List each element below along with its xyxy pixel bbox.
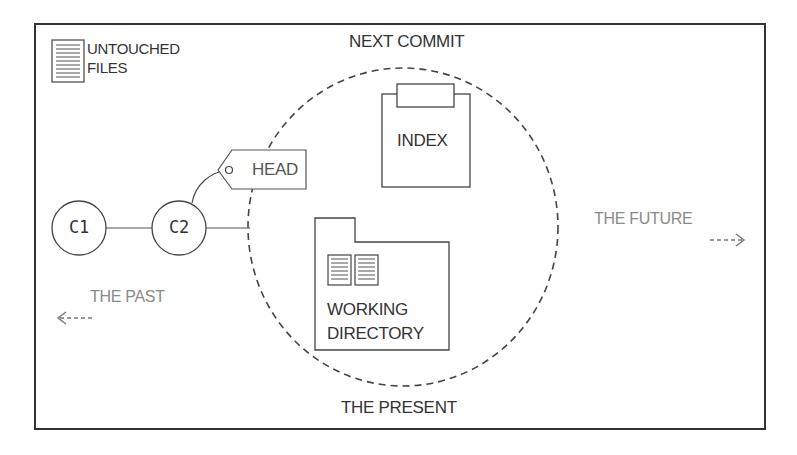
working-directory-line-1: WORKING [327, 298, 424, 322]
document-icon [52, 40, 84, 82]
future-arrow-icon [710, 234, 744, 246]
the-past-label: THE PAST [90, 288, 165, 306]
past-arrow-icon [58, 312, 92, 324]
working-directory-line-2: DIRECTORY [327, 322, 424, 346]
legend-line-2: FILES [87, 58, 180, 77]
next-commit-label: NEXT COMMIT [349, 32, 464, 52]
tag-hole-icon [226, 167, 233, 174]
index-label: INDEX [397, 131, 447, 151]
the-future-label: THE FUTURE [594, 210, 692, 228]
commit-c1-label: C1 [63, 217, 95, 237]
the-present-label: THE PRESENT [341, 398, 457, 418]
commit-c2-label: C2 [163, 217, 195, 237]
head-label: HEAD [252, 160, 298, 180]
legend-label: UNTOUCHED FILES [87, 39, 180, 77]
working-directory-label: WORKING DIRECTORY [327, 298, 424, 346]
legend-line-1: UNTOUCHED [87, 39, 180, 58]
